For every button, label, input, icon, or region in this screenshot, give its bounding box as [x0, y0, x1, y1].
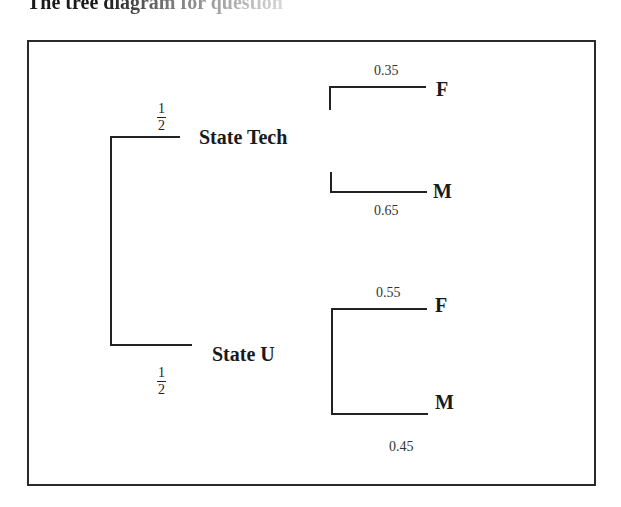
branch-line-state-tech-f [329, 86, 426, 88]
root-vertical-line [110, 136, 112, 346]
fraction-numerator: 1 [157, 366, 166, 382]
tree-diagram-frame [27, 40, 596, 486]
probability-state-tech-m: 0.65 [374, 204, 399, 218]
probability-state-u-f: 0.55 [376, 286, 401, 300]
state-u-vertical-line [331, 308, 333, 415]
stub-state-tech-m [330, 172, 332, 193]
node-state-tech: State Tech [199, 127, 287, 147]
leaf-state-u-f: F [435, 295, 447, 315]
fraction-numerator: 1 [157, 102, 166, 118]
probability-state-tech-f: 0.35 [374, 64, 399, 78]
probability-state-u: 1 2 [157, 366, 166, 397]
branch-line-state-u [110, 344, 192, 346]
page-title: The tree diagram for question [27, 0, 283, 14]
branch-line-state-u-m [331, 413, 428, 415]
node-state-u: State U [212, 344, 275, 364]
fraction-denominator: 2 [158, 382, 165, 397]
fraction-denominator: 2 [158, 118, 165, 133]
branch-line-state-tech-m [330, 191, 427, 193]
leaf-state-tech-f: F [436, 79, 448, 99]
leaf-state-u-m: M [435, 392, 454, 412]
leaf-state-tech-m: M [433, 181, 452, 201]
stub-state-tech-f [329, 86, 331, 110]
probability-state-u-m: 0.45 [389, 440, 414, 454]
branch-line-state-tech [110, 136, 180, 138]
branch-line-state-u-f [331, 308, 427, 310]
probability-state-tech: 1 2 [157, 102, 166, 133]
